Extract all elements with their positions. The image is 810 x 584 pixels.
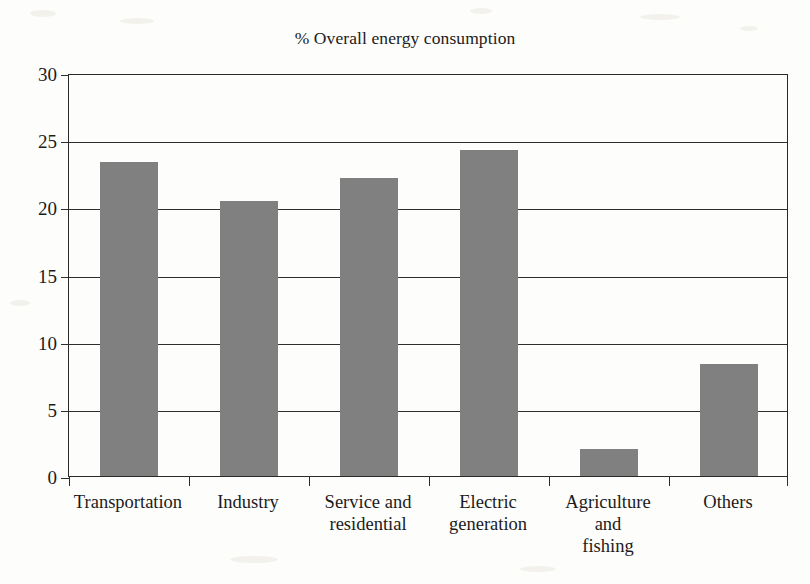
xtick-mark-3 xyxy=(429,476,430,486)
plot-area: 30 25 20 15 10 5 0 xyxy=(68,74,788,477)
paper-speck xyxy=(640,14,680,20)
ytick-label-0: 0 xyxy=(48,468,58,487)
bar-industry xyxy=(220,201,278,476)
xtick-label-line: generation xyxy=(428,514,548,536)
ytick-label-15: 15 xyxy=(38,267,57,286)
ytick-mark-5 xyxy=(61,411,69,412)
bar-electric-generation xyxy=(460,150,518,476)
xtick-mark-6 xyxy=(787,476,788,486)
gridline-25 xyxy=(69,142,787,143)
ytick-mark-20 xyxy=(61,209,69,210)
ytick-mark-10 xyxy=(61,344,69,345)
x-axis-category-labels: Transportation Industry Service and resi… xyxy=(68,492,788,582)
paper-speck xyxy=(470,8,492,14)
paper-speck xyxy=(10,300,30,306)
ytick-label-10: 10 xyxy=(38,334,57,353)
xtick-label-line: Others xyxy=(668,492,788,514)
ytick-label-5: 5 xyxy=(48,401,58,420)
gridline-20 xyxy=(69,209,787,210)
bar-agriculture-fishing xyxy=(580,449,638,476)
gridline-15 xyxy=(69,277,787,278)
xtick-label-others: Others xyxy=(668,492,788,514)
gridline-10 xyxy=(69,344,787,345)
xtick-label-line: Transportation xyxy=(68,492,188,514)
xtick-label-line: residential xyxy=(308,514,428,536)
xtick-label-industry: Industry xyxy=(188,492,308,514)
xtick-label-line: Electric xyxy=(428,492,548,514)
paper-speck xyxy=(30,10,56,17)
xtick-label-line: Agriculture xyxy=(548,492,668,514)
chart-title: % Overall energy consumption xyxy=(0,28,810,49)
ytick-mark-0 xyxy=(61,478,69,479)
xtick-mark-1 xyxy=(189,476,190,486)
xtick-label-line: fishing xyxy=(548,536,668,558)
bar-others xyxy=(700,364,758,476)
xtick-label-transportation: Transportation xyxy=(68,492,188,514)
xtick-label-line: and xyxy=(548,514,668,536)
ytick-mark-30 xyxy=(61,75,69,76)
ytick-mark-15 xyxy=(61,277,69,278)
ytick-label-20: 20 xyxy=(38,199,57,218)
bar-chart-figure: % Overall energy consumption 30 25 20 15… xyxy=(0,0,810,584)
paper-speck xyxy=(120,18,154,24)
ytick-label-30: 30 xyxy=(38,65,57,84)
xtick-label-line: Industry xyxy=(188,492,308,514)
xtick-mark-5 xyxy=(669,476,670,486)
xtick-label-agriculture-fishing: Agriculture and fishing xyxy=(548,492,668,557)
gridline-5 xyxy=(69,411,787,412)
xtick-label-service-residential: Service and residential xyxy=(308,492,428,536)
bar-transportation xyxy=(100,162,158,476)
xtick-mark-0 xyxy=(69,476,70,486)
xtick-mark-4 xyxy=(549,476,550,486)
bar-service-residential xyxy=(340,178,398,476)
xtick-label-line: Service and xyxy=(308,492,428,514)
ytick-label-25: 25 xyxy=(38,132,57,151)
xtick-mark-2 xyxy=(309,476,310,486)
ytick-mark-25 xyxy=(61,142,69,143)
xtick-label-electric-generation: Electric generation xyxy=(428,492,548,536)
